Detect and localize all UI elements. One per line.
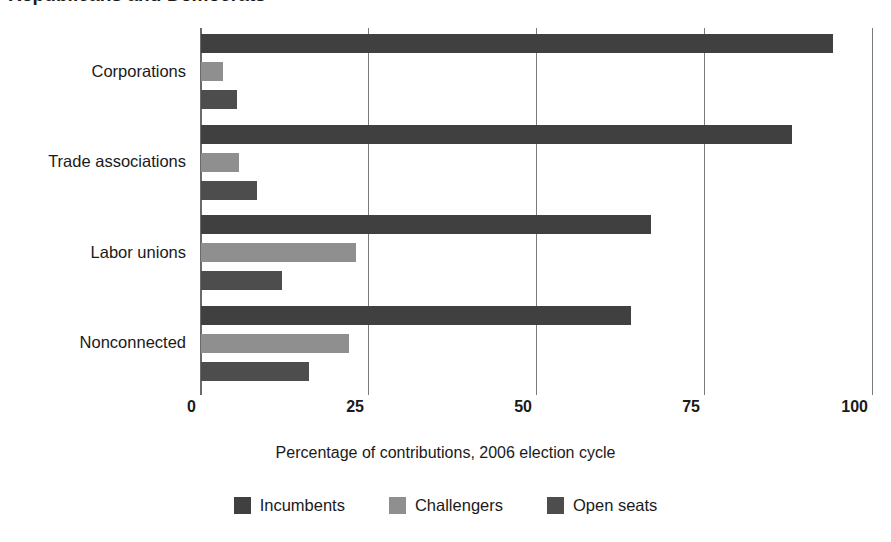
- gridline-25: [368, 28, 369, 395]
- x-tick-label: 50: [514, 398, 536, 416]
- category-label: Trade associations: [0, 152, 186, 171]
- x-tick-label: 25: [346, 398, 368, 416]
- bar: [201, 362, 309, 381]
- category-label: Nonconnected: [0, 333, 186, 352]
- bar: [201, 306, 631, 325]
- chart-legend: IncumbentsChallengersOpen seats: [0, 496, 891, 515]
- legend-label: Challengers: [415, 496, 503, 515]
- bar: [201, 153, 239, 172]
- x-tick-label: 0: [187, 398, 200, 416]
- x-axis-title: Percentage of contributions, 2006 electi…: [0, 444, 891, 462]
- figure-title-text: Republicans and Democrats: [8, 0, 266, 6]
- legend-swatch-icon: [547, 497, 564, 514]
- category-label: Corporations: [0, 62, 186, 81]
- legend-item: Challengers: [389, 496, 503, 515]
- bar: [201, 243, 356, 262]
- plot-area: [200, 28, 872, 395]
- x-tick-label: 75: [682, 398, 704, 416]
- legend-swatch-icon: [234, 497, 251, 514]
- gridline-75: [704, 28, 705, 395]
- bar: [201, 125, 792, 144]
- gridline-100: [872, 28, 873, 395]
- gridline-50: [536, 28, 537, 395]
- bar: [201, 34, 833, 53]
- bar: [201, 90, 237, 109]
- legend-item: Open seats: [547, 496, 657, 515]
- legend-item: Incumbents: [234, 496, 345, 515]
- legend-label: Incumbents: [260, 496, 345, 515]
- bar: [201, 62, 223, 81]
- legend-label: Open seats: [573, 496, 657, 515]
- legend-swatch-icon: [389, 497, 406, 514]
- figure-title-cropped: Republicans and Democrats: [0, 0, 891, 8]
- bar: [201, 271, 282, 290]
- bar: [201, 181, 257, 200]
- x-tick-label: 100: [841, 398, 872, 416]
- bar: [201, 334, 349, 353]
- bar-chart-figure: Republicans and Democrats CorporationsTr…: [0, 0, 891, 542]
- bar: [201, 215, 651, 234]
- category-label: Labor unions: [0, 243, 186, 262]
